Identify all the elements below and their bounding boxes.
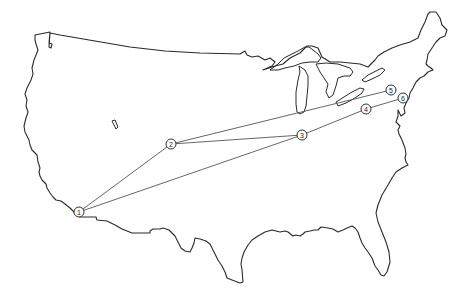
lake-superior <box>270 47 321 70</box>
route-1-2 <box>79 144 171 212</box>
lake-ontario <box>362 68 385 82</box>
stop-marker-6[interactable]: 6 <box>398 93 408 103</box>
stop-marker-5[interactable]: 5 <box>386 85 396 95</box>
lake-erie <box>336 88 364 106</box>
us-outline <box>24 12 447 283</box>
stop-marker-3[interactable]: 3 <box>297 130 307 140</box>
route-4-6 <box>366 98 403 109</box>
stop-label: 5 <box>389 87 393 94</box>
routes <box>79 90 403 212</box>
route-3-4 <box>302 109 366 135</box>
us-map: 1 2 3 4 5 6 <box>0 0 468 298</box>
stop-label: 2 <box>169 141 173 148</box>
stop-marker-4[interactable]: 4 <box>361 104 371 114</box>
stop-label: 1 <box>77 209 81 216</box>
great-salt-lake <box>112 120 118 129</box>
lake-michigan <box>296 66 308 114</box>
stop-label: 4 <box>364 106 368 113</box>
stop-label: 6 <box>401 95 405 102</box>
stop-label: 3 <box>300 132 304 139</box>
route-2-5 <box>171 90 391 144</box>
stop-marker-1[interactable]: 1 <box>74 207 84 217</box>
lake-huron <box>316 63 353 98</box>
stop-marker-2[interactable]: 2 <box>166 139 176 149</box>
route-1-3 <box>79 135 302 212</box>
